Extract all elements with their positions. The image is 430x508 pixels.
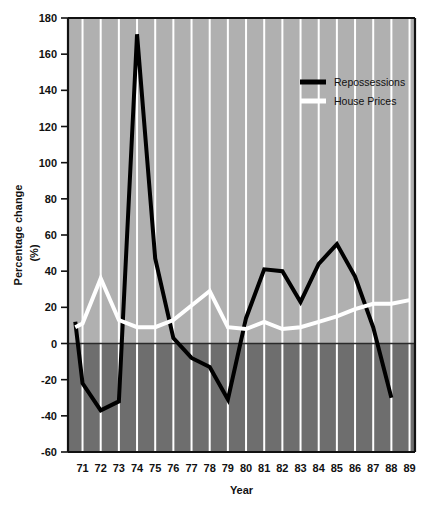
y-tick-label--20: -20 <box>41 374 57 386</box>
chart-container: 180160140120100806040200-20-40-607172737… <box>0 0 430 508</box>
y-tick-label--40: -40 <box>41 410 57 422</box>
x-axis-title: Year <box>230 484 254 496</box>
y-tick-label--60: -60 <box>41 446 57 458</box>
x-tick-label-81: 81 <box>258 462 270 474</box>
x-tick-label-88: 88 <box>385 462 397 474</box>
x-tick-label-72: 72 <box>95 462 107 474</box>
x-tick-label-85: 85 <box>331 462 343 474</box>
y-tick-label-120: 120 <box>39 121 57 133</box>
x-tick-label-86: 86 <box>349 462 361 474</box>
legend-label-repossessions: Repossessions <box>334 76 405 88</box>
x-tick-label-75: 75 <box>149 462 161 474</box>
x-tick-label-89: 89 <box>403 462 415 474</box>
x-tick-label-78: 78 <box>204 462 216 474</box>
x-tick-label-82: 82 <box>276 462 288 474</box>
y-tick-label-180: 180 <box>39 12 57 24</box>
x-tick-label-74: 74 <box>131 462 144 474</box>
x-tick-label-76: 76 <box>167 462 179 474</box>
y-axis-title-main: Percentage change <box>12 185 24 286</box>
x-tick-label-87: 87 <box>367 462 379 474</box>
y-tick-label-140: 140 <box>39 84 57 96</box>
y-tick-label-0: 0 <box>51 338 57 350</box>
y-tick-label-40: 40 <box>45 265 57 277</box>
x-tick-label-71: 71 <box>76 462 88 474</box>
y-tick-label-80: 80 <box>45 193 57 205</box>
x-tick-label-73: 73 <box>113 462 125 474</box>
legend-label-house-prices: House Prices <box>334 95 396 107</box>
percentage-change-line-chart: 180160140120100806040200-20-40-607172737… <box>0 0 430 508</box>
y-tick-label-100: 100 <box>39 157 57 169</box>
x-tick-label-80: 80 <box>240 462 252 474</box>
x-tick-label-79: 79 <box>222 462 234 474</box>
x-tick-label-77: 77 <box>185 462 197 474</box>
y-axis-title-unit: (%) <box>28 244 40 261</box>
y-tick-label-160: 160 <box>39 48 57 60</box>
y-tick-label-60: 60 <box>45 229 57 241</box>
x-tick-label-83: 83 <box>294 462 306 474</box>
x-tick-label-84: 84 <box>313 462 326 474</box>
y-tick-label-20: 20 <box>45 301 57 313</box>
